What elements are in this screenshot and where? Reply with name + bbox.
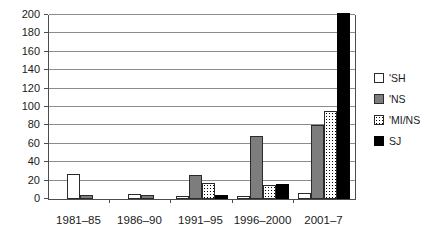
y-tick-label-120: 120 (8, 82, 40, 94)
x-tick-1 (109, 199, 110, 203)
bar-ns-2001-7 (311, 125, 324, 199)
bar-groups (49, 15, 355, 199)
bar-ns-1981-85 (80, 195, 93, 199)
y-tick-label-180: 180 (8, 26, 40, 38)
x-tick-label-1991-95: 1991–95 (170, 214, 231, 226)
x-tick-4 (293, 199, 294, 203)
legend-swatch-sj-icon (374, 136, 384, 146)
bar-ns-1996-2000 (250, 136, 263, 199)
bar-group-1991-95 (171, 15, 232, 199)
y-tick-label-20: 20 (8, 174, 40, 186)
y-tick-label-60: 60 (8, 137, 40, 149)
legend-item-ns: 'NS (374, 93, 420, 105)
bar-ns-1986-90 (141, 195, 154, 199)
bar-group-2001-7 (294, 15, 355, 199)
bar-sh-1996-2000 (237, 196, 250, 199)
x-tick-label-1981-85: 1981–85 (48, 214, 109, 226)
legend-label-sj: SJ (389, 135, 401, 147)
bar-sj-2001-7 (337, 13, 350, 199)
plot-area (48, 15, 356, 200)
bar-chart-figure: 020406080100120140160180200 1981–851986–… (0, 0, 424, 235)
y-tick-label-140: 140 (8, 63, 40, 75)
bar-sh-1991-95 (176, 196, 189, 199)
y-tick-label-40: 40 (8, 155, 40, 167)
bar-group-1981-85 (49, 15, 110, 199)
legend-label-ns: 'NS (389, 93, 406, 105)
legend-item-mins: 'MI/NS (374, 114, 420, 126)
legend-swatch-ns-icon (374, 94, 384, 104)
y-tick-label-80: 80 (8, 118, 40, 130)
legend-item-sj: SJ (374, 135, 420, 147)
bar-mins-1991-95 (202, 183, 215, 199)
bar-group-1986-90 (110, 15, 171, 199)
y-tick-label-160: 160 (8, 45, 40, 57)
x-tick-label-1996-2000: 1996–2000 (232, 214, 293, 226)
bar-sj-1991-95 (215, 195, 228, 199)
legend: 'SH'NS'MI/NSSJ (374, 72, 420, 156)
legend-swatch-mins-icon (374, 115, 384, 125)
x-tick-label-1986-90: 1986–90 (109, 214, 170, 226)
bar-ns-1991-95 (189, 175, 202, 199)
x-tick-label-2001-7: 2001–7 (293, 214, 354, 226)
y-tick-label-100: 100 (8, 100, 40, 112)
bar-sj-1996-2000 (276, 184, 289, 199)
legend-label-sh: 'SH (389, 72, 406, 84)
bar-group-1996-2000 (233, 15, 294, 199)
bar-sh-2001-7 (298, 193, 311, 199)
legend-swatch-sh-icon (374, 73, 384, 83)
bar-sh-1986-90 (128, 194, 141, 199)
y-tick-label-200: 200 (8, 8, 40, 20)
legend-label-mins: 'MI/NS (389, 114, 420, 126)
y-tick-label-0: 0 (8, 192, 40, 204)
x-tick-2 (170, 199, 171, 203)
legend-item-sh: 'SH (374, 72, 420, 84)
bar-mins-2001-7 (324, 111, 337, 199)
x-tick-3 (232, 199, 233, 203)
bar-sh-1981-85 (67, 174, 80, 199)
bar-mins-1996-2000 (263, 185, 276, 199)
